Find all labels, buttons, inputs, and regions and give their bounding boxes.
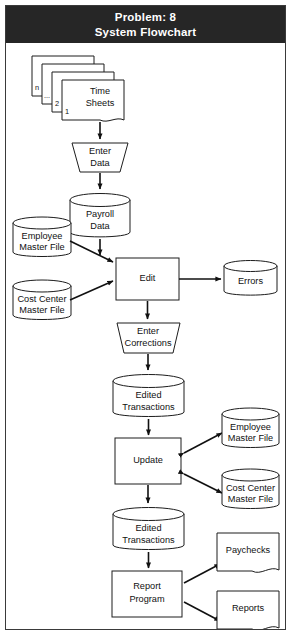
edge-update-costcenter2 [184,474,222,493]
reports-label: Reports [232,603,265,613]
node-edit[interactable]: Edit [116,258,179,300]
time-sheets-label-line2: Sheets [86,98,115,108]
node-enter-corrections[interactable]: Enter Corrections [117,323,180,353]
update-label: Update [133,455,163,465]
node-enter-data[interactable]: Enter Data [72,143,128,172]
node-report-program[interactable]: Report Program [112,571,182,617]
time-sheets-label-n: n [35,83,39,92]
paychecks-label: Paychecks [226,545,271,555]
cost-center-2-label-line1: Cost Center [226,483,275,493]
flowchart-figure: Problem: 8 System Flowchart n ... [0,0,292,638]
edited-trans-2-label-line2: Transactions [122,535,175,545]
cost-center-2-top [222,469,279,481]
edited-trans-2-top [113,508,184,521]
node-employee-master-file-2[interactable]: Employee Master File [222,408,279,448]
employee-master-1-label-line2: Master File [19,242,64,252]
node-employee-master-file-1[interactable]: Employee Master File [13,217,71,257]
errors-top [224,261,277,272]
employee-master-2-top [222,408,279,420]
time-sheets-label-ellipsis: ... [44,91,50,100]
employee-master-1-label-line1: Employee [22,231,63,241]
report-program-label-line1: Report [133,581,161,591]
node-payroll-data[interactable]: Payroll Data [70,194,130,237]
enter-corrections-label-line1: Enter [137,326,159,336]
time-sheets-label-line1: Time [90,86,110,96]
enter-data-label-line2: Data [90,158,110,168]
enter-data-label-line1: Enter [89,146,111,156]
node-errors[interactable]: Errors [224,261,277,296]
cost-center-1-top [13,280,71,292]
edited-trans-1-label-line1: Edited [135,390,161,400]
time-sheets-label-2: 2 [55,99,59,108]
node-update[interactable]: Update [115,438,181,484]
edited-trans-2-label-line1: Edited [135,523,161,533]
edit-label: Edit [140,273,156,283]
employee-master-2-label-line1: Employee [230,422,271,432]
enter-corrections-label-line2: Corrections [125,338,172,348]
node-cost-center-master-file-1[interactable]: Cost Center Master File [13,280,71,320]
flowchart-canvas: n ... 2 1 Time Sheets Enter Data [6,43,285,629]
problem-number-label: Problem: 8 [6,10,285,25]
node-time-sheets[interactable]: n ... 2 1 Time Sheets [32,56,124,121]
node-edited-transactions-2[interactable]: Edited Transactions [113,508,184,550]
edited-trans-1-top [113,375,184,388]
time-sheets-label-1: 1 [65,107,69,116]
cost-center-1-label-line1: Cost Center [17,294,66,304]
edge-employeemaster1-to-edit [70,241,113,262]
payroll-data-label-line1: Payroll [86,209,114,219]
payroll-data-top [70,194,130,207]
errors-label: Errors [238,276,263,286]
edited-trans-1-label-line2: Transactions [122,402,175,412]
edge-update-employeemaster2 [184,433,222,453]
flowchart-svg: n ... 2 1 Time Sheets Enter Data [6,43,285,629]
edge-reportprogram-to-paychecks [184,564,220,583]
employee-master-2-label-line2: Master File [228,433,273,443]
node-edited-transactions-1[interactable]: Edited Transactions [113,375,184,417]
report-program-label-line2: Program [129,594,165,604]
node-paychecks[interactable]: Paychecks [217,533,279,572]
cost-center-1-label-line2: Master File [19,305,64,315]
employee-master-1-top [13,217,71,229]
cost-center-2-label-line2: Master File [228,494,273,504]
figure-title-label: System Flowchart [6,25,285,40]
node-reports[interactable]: Reports [217,591,279,629]
payroll-data-label-line2: Data [90,221,110,231]
figure-title-bar: Problem: 8 System Flowchart [6,6,285,43]
edge-reportprogram-to-reports [184,602,220,621]
node-cost-center-master-file-2[interactable]: Cost Center Master File [222,469,279,509]
edge-costcenter1-to-edit [70,281,113,300]
